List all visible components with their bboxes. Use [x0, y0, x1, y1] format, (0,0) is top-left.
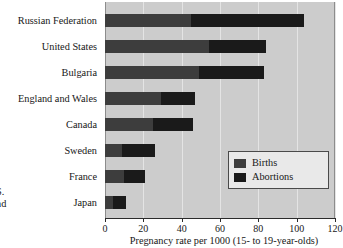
y-axis-line [105, 2, 106, 218]
chart-legend: BirthsAbortions [228, 151, 329, 189]
bar-segment-abortions [153, 118, 193, 131]
bar-segment-births [105, 196, 113, 209]
category-label-russian-federation: Russian Federation [18, 14, 97, 27]
bar-segment-abortions [161, 92, 196, 105]
bar-row [105, 14, 335, 27]
x-axis-tick [182, 218, 183, 222]
x-axis-tick-label: 40 [177, 223, 187, 235]
legend-label: Births [252, 157, 277, 169]
x-axis-tick-label: 0 [103, 223, 108, 235]
legend-item-abortions: Abortions [234, 170, 323, 184]
margin-caption-fragment: S. nd [0, 186, 32, 210]
bar-segment-abortions [113, 196, 126, 209]
x-axis-tick-label: 120 [328, 223, 343, 235]
margin-caption-line-1: S. [0, 186, 32, 198]
gridline [182, 2, 183, 218]
gridline [220, 2, 221, 218]
bar-row [105, 92, 335, 105]
x-axis-tick-label: 60 [215, 223, 225, 235]
bar-row [105, 40, 335, 53]
category-label-canada: Canada [66, 118, 97, 131]
legend-swatch-births [234, 159, 246, 168]
gridline [143, 2, 144, 218]
x-axis-tick [258, 218, 259, 222]
x-axis-tick [143, 218, 144, 222]
x-axis-tick-label: 20 [138, 223, 148, 235]
x-axis-tick [105, 218, 106, 222]
x-axis-title: Pregnancy rate per 1000 (15- to 19-year-… [105, 235, 343, 247]
x-axis-tick [335, 218, 336, 222]
category-label-japan: Japan [74, 196, 97, 209]
category-label-bulgaria: Bulgaria [62, 66, 97, 79]
category-label-united-states: United States [42, 40, 97, 53]
bar-segment-births [105, 92, 161, 105]
bar-segment-abortions [199, 66, 264, 79]
x-axis-tick-label: 80 [253, 223, 263, 235]
bar-segment-births [105, 66, 199, 79]
legend-item-births: Births [234, 156, 323, 170]
bar-segment-abortions [124, 170, 145, 183]
bar-segment-births [105, 118, 153, 131]
category-label-france: France [69, 170, 97, 183]
bar-segment-abortions [191, 14, 304, 27]
legend-swatch-abortions [234, 173, 246, 182]
bar-row [105, 196, 335, 209]
bar-segment-births [105, 170, 124, 183]
bar-segment-births [105, 144, 122, 157]
bar-row [105, 118, 335, 131]
gridline [335, 2, 336, 218]
stacked-bar-chart: Russian FederationUnited StatesBulgariaE… [0, 0, 343, 248]
legend-label: Abortions [252, 171, 293, 183]
x-axis-tick-label: 100 [289, 223, 304, 235]
bar-segment-births [105, 40, 209, 53]
bar-segment-births [105, 14, 191, 27]
margin-caption-line-2: nd [0, 198, 32, 210]
x-axis-tick [220, 218, 221, 222]
category-label-sweden: Sweden [64, 144, 97, 157]
category-label-england-and-wales: England and Wales [18, 92, 97, 105]
bar-segment-abortions [122, 144, 155, 157]
x-axis-tick [297, 218, 298, 222]
bar-row [105, 66, 335, 79]
bar-segment-abortions [209, 40, 267, 53]
